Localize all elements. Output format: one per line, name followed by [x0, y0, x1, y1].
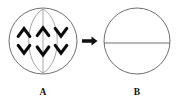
- panel-label-b: B: [134, 87, 141, 97]
- transition-arrow: [82, 37, 98, 46]
- panel-b: B: [104, 8, 170, 97]
- panel-a: A: [9, 8, 77, 97]
- chromosome-bottom-right: [55, 45, 67, 53]
- chromosome-bottom-left: [18, 45, 30, 53]
- panel-label-a: A: [40, 87, 47, 97]
- diagram-canvas: A B: [0, 0, 178, 105]
- diagram-figure: A B: [0, 0, 178, 105]
- cell-outline-b: [104, 8, 170, 74]
- arrow-right-icon: [82, 37, 98, 46]
- spindle-arc-left: [29, 9, 43, 73]
- spindle-arc-right: [43, 9, 57, 73]
- chromosome-top-left: [18, 29, 30, 37]
